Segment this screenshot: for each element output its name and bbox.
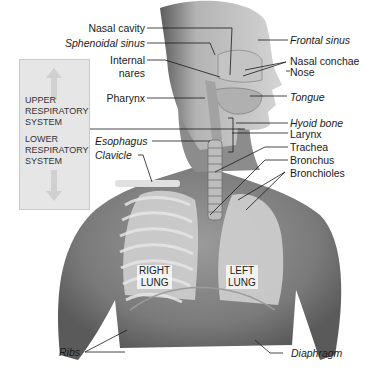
torso-silhouette xyxy=(58,165,341,360)
upper-line-1: UPPER xyxy=(25,95,89,106)
lower-line-3: SYSTEM xyxy=(25,156,89,167)
label-bronchus: Bronchus xyxy=(290,154,334,166)
left-lung-line-2: LUNG xyxy=(228,277,256,289)
right-lung-label: RIGHT LUNG xyxy=(137,265,172,289)
label-internal-nares-2: nares xyxy=(119,67,145,79)
label-sphenoidal-sinus: Sphenoidal sinus xyxy=(65,37,145,49)
upper-line-3: SYSTEM xyxy=(25,117,89,128)
label-bronchioles: Bronchioles xyxy=(290,167,345,179)
label-internal-nares-1: Internal xyxy=(110,54,145,66)
left-lung-label: LEFT LUNG xyxy=(226,265,258,289)
left-lung-line-1: LEFT xyxy=(228,265,256,277)
label-frontal-sinus: Frontal sinus xyxy=(290,34,350,46)
label-larynx: Larynx xyxy=(290,128,322,140)
upper-line-2: RESPIRATORY xyxy=(25,106,89,117)
lower-respiratory-label: LOWER RESPIRATORY SYSTEM xyxy=(25,134,89,167)
lower-line-1: LOWER xyxy=(25,134,89,145)
label-diaphragm: Diaphragm xyxy=(291,347,342,359)
clavicle-bone xyxy=(115,180,180,187)
label-tongue: Tongue xyxy=(290,91,325,103)
upper-respiratory-label: UPPER RESPIRATORY SYSTEM xyxy=(25,95,89,128)
label-esophagus: Esophagus xyxy=(95,135,148,147)
right-lung-line-1: RIGHT xyxy=(139,265,170,277)
label-ribs: Ribs xyxy=(59,346,80,358)
lower-line-2: RESPIRATORY xyxy=(25,145,89,156)
label-clavicle: Clavicle xyxy=(95,149,132,161)
label-pharynx: Pharynx xyxy=(106,92,145,104)
label-nose: Nose xyxy=(290,66,315,78)
trachea-rings xyxy=(208,140,222,220)
right-lung-line-2: LUNG xyxy=(139,277,170,289)
respiratory-diagram: UPPER RESPIRATORY SYSTEM LOWER RESPIRATO… xyxy=(0,0,373,381)
label-trachea: Trachea xyxy=(290,141,328,153)
label-nasal-cavity: Nasal cavity xyxy=(88,22,145,34)
respiratory-regions-box: UPPER RESPIRATORY SYSTEM LOWER RESPIRATO… xyxy=(19,59,90,210)
